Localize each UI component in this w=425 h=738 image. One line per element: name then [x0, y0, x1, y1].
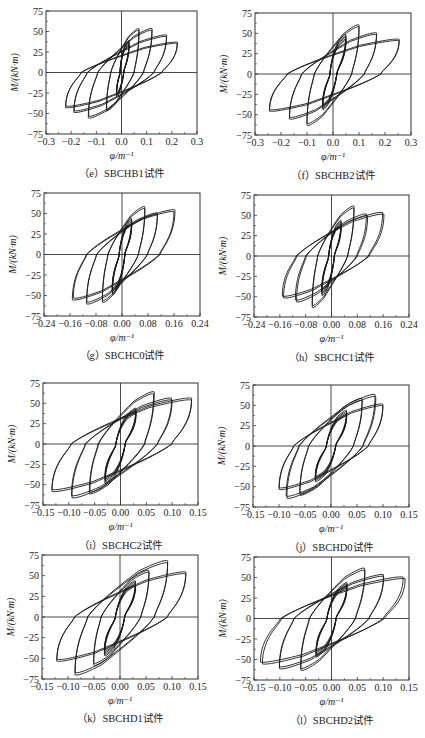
y-tick-label: −50 [236, 109, 252, 120]
x-axis-label: φ/m⁻¹ [320, 333, 344, 344]
x-tick-label: 0.00 [111, 681, 129, 692]
y-tick-label: −25 [24, 459, 40, 470]
y-tick-label: −50 [235, 654, 251, 665]
x-tick-label: −0.10 [57, 507, 80, 518]
x-axis-label: φ/m⁻¹ [108, 695, 132, 706]
x-tick-label: 0.10 [163, 507, 181, 518]
y-tick-label: 0 [245, 441, 250, 452]
x-tick-label: 0.00 [323, 319, 341, 330]
x-tick-label: −0.15 [242, 682, 265, 693]
y-tick-label: 25 [241, 593, 251, 604]
x-tick-label: −0.24 [242, 319, 265, 330]
y-tick-label: 0 [38, 67, 43, 78]
x-tick-label: 0.10 [374, 682, 392, 693]
y-tick-label: −25 [27, 88, 43, 99]
y-tick-label: −25 [25, 270, 41, 281]
x-tick-label: 0.15 [189, 507, 207, 518]
x-tick-label: 0.08 [139, 318, 157, 329]
x-tick-label: 0.24 [400, 319, 418, 330]
panel-caption: （g）SBCHC0试件 [62, 347, 182, 362]
x-tick-label: 0.05 [348, 509, 366, 520]
chart-panel-6: 7550250−25−50−75−0.15−0.10−0.050.000.050… [2, 545, 218, 709]
y-tick-label: −25 [23, 632, 39, 643]
x-tick-label: 0.0 [327, 137, 340, 148]
y-tick-label: −50 [27, 108, 43, 119]
panel-caption: （e）SBCHB1试件 [62, 165, 182, 180]
y-tick-label: 50 [29, 570, 39, 581]
chart-panel-5: 7550250−25−50−75−0.15−0.10−0.050.000.050… [213, 375, 425, 537]
x-tick-label: 0.05 [138, 507, 156, 518]
x-tick-label: 0.0 [115, 136, 128, 147]
panel-caption: （h）SBCHC1试件 [272, 349, 392, 364]
hysteresis-curves [269, 25, 399, 126]
x-tick-label: −0.2 [62, 136, 80, 147]
x-tick-label: 0.05 [137, 681, 155, 692]
x-axis-label: φ/m⁻¹ [319, 523, 343, 534]
y-tick-label: −50 [24, 479, 40, 490]
y-tick-label: 50 [242, 28, 252, 39]
y-tick-label: 50 [31, 208, 41, 219]
y-tick-label: 0 [34, 612, 39, 623]
x-tick-label: 0.1 [140, 136, 153, 147]
y-tick-label: 25 [241, 230, 251, 241]
y-tick-label: −25 [235, 634, 251, 645]
y-tick-label: −50 [235, 291, 251, 302]
y-axis-label: M/(kN·m) [6, 424, 18, 464]
y-tick-label: −25 [234, 461, 250, 472]
y-tick-label: 25 [240, 420, 250, 431]
x-tick-label: −0.05 [82, 681, 105, 692]
x-tick-label: 0.24 [191, 318, 209, 329]
x-axis-label: φ/m⁻¹ [109, 521, 133, 532]
x-tick-label: 0.3 [191, 136, 204, 147]
x-tick-label: −0.08 [294, 319, 317, 330]
chart-panel-3: 7550250−25−50−75−0.24−0.16−0.080.000.080… [214, 185, 425, 347]
x-tick-label: 0.00 [112, 507, 130, 518]
x-tick-label: −0.10 [267, 509, 290, 520]
x-tick-label: −0.16 [268, 319, 291, 330]
y-tick-label: −25 [236, 89, 252, 100]
y-tick-label: −50 [23, 653, 39, 664]
y-tick-label: 75 [240, 380, 250, 391]
panel-caption: （f）SBCHB2试件 [273, 167, 393, 182]
x-tick-label: 0.16 [374, 319, 392, 330]
x-tick-label: −0.3 [246, 137, 264, 148]
y-axis-label: M/(kN·m) [217, 236, 229, 276]
y-tick-label: 75 [242, 8, 252, 19]
y-tick-label: 25 [30, 418, 40, 429]
x-tick-label: 0.2 [166, 136, 179, 147]
x-axis-label: φ/m⁻¹ [110, 332, 134, 343]
y-tick-label: 50 [240, 400, 250, 411]
y-axis-label: M/(kN·m) [218, 54, 230, 94]
y-axis-label: M/(kN·m) [217, 599, 229, 639]
y-tick-label: −50 [25, 290, 41, 301]
x-tick-label: 0.00 [322, 509, 340, 520]
y-tick-label: −25 [235, 271, 251, 282]
x-tick-label: −0.05 [294, 682, 317, 693]
y-axis-label: M/(kN·m) [5, 597, 17, 637]
x-tick-label: 0.10 [374, 509, 392, 520]
x-tick-label: −0.3 [37, 136, 55, 147]
y-tick-label: 75 [29, 550, 39, 561]
x-tick-label: −0.10 [268, 682, 291, 693]
y-tick-label: 75 [241, 552, 251, 563]
y-tick-label: 25 [31, 229, 41, 240]
x-tick-label: −0.05 [293, 509, 316, 520]
x-tick-label: −0.15 [30, 681, 53, 692]
y-tick-label: 25 [33, 47, 43, 58]
chart-panel-1: 7550250−25−50−75−0.3−0.2−0.10.00.10.20.3… [215, 3, 425, 165]
x-tick-label: −0.10 [56, 681, 79, 692]
x-tick-label: −0.1 [298, 137, 316, 148]
hysteresis-curves [282, 206, 384, 308]
y-axis-label: M/(kN·m) [7, 235, 19, 275]
x-tick-label: −0.24 [32, 318, 55, 329]
y-tick-label: 0 [247, 69, 252, 80]
x-tick-label: 0.1 [353, 137, 366, 148]
y-tick-label: 0 [35, 439, 40, 450]
x-tick-label: −0.16 [58, 318, 81, 329]
hysteresis-curves [52, 392, 192, 498]
y-tick-label: 75 [31, 188, 41, 199]
y-axis-label: M/(kN·m) [9, 53, 21, 93]
y-tick-label: 0 [246, 613, 251, 624]
x-tick-label: −0.1 [87, 136, 105, 147]
y-axis-label: M/(kN·m) [216, 426, 228, 466]
